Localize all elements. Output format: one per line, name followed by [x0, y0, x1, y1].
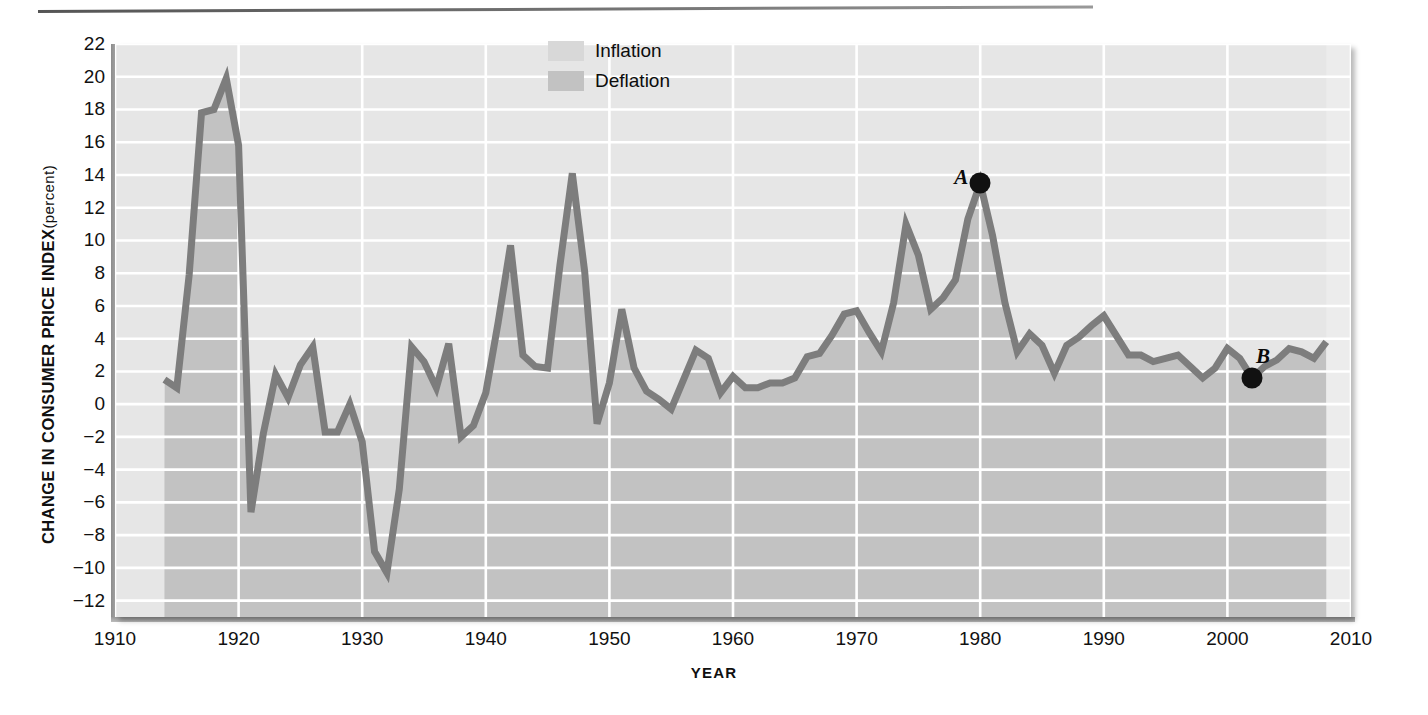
x-tick-label: 2010 [1330, 628, 1372, 650]
legend-item-inflation: Inflation [548, 40, 670, 62]
y-tick-label: 8 [61, 262, 105, 284]
legend: Inflation Deflation [548, 40, 670, 100]
y-tick-label: 2 [61, 360, 105, 382]
left-margin-strip [115, 44, 164, 617]
x-tick-label: 1920 [217, 628, 259, 650]
legend-swatch-deflation [548, 71, 584, 91]
y-tick-label: 4 [61, 328, 105, 350]
x-axis-title: YEAR [0, 664, 1428, 681]
y-tick-label: 20 [61, 66, 105, 88]
plot-inner [115, 44, 1351, 617]
y-tick-label: 16 [61, 131, 105, 153]
x-tick-label: 1970 [835, 628, 877, 650]
legend-swatch-inflation [548, 41, 584, 61]
annotation-dot [970, 173, 991, 194]
y-axis-tick-labels: 2220181614121086420−2−4−6−8−10−12 [55, 0, 105, 715]
y-tick-label: 14 [61, 164, 105, 186]
y-tick-label: 18 [61, 98, 105, 120]
chart-figure: CHANGE IN CONSUMER PRICE INDEX(percent) … [0, 0, 1428, 715]
x-tick-label: 1990 [1083, 628, 1125, 650]
x-tick-label: 1930 [341, 628, 383, 650]
x-tick-label: 1960 [712, 628, 754, 650]
y-tick-label: 22 [61, 33, 105, 55]
y-tick-label: −8 [61, 524, 105, 546]
x-tick-label: 1950 [588, 628, 630, 650]
annotation-label-b: B [1256, 344, 1270, 369]
top-rule-divider [38, 5, 1093, 13]
y-tick-label: −2 [61, 426, 105, 448]
y-tick-label: 12 [61, 197, 105, 219]
legend-item-deflation: Deflation [548, 70, 670, 92]
y-tick-label: −10 [61, 557, 105, 579]
y-axis-title-main: CHANGE IN CONSUMER PRICE INDEX [39, 229, 57, 544]
x-axis-line [111, 617, 1355, 622]
y-tick-label: 10 [61, 229, 105, 251]
annotation-dot [1242, 367, 1263, 388]
y-tick-label: −12 [61, 590, 105, 612]
legend-label-deflation: Deflation [595, 70, 670, 92]
annotation-label-a: A [954, 165, 968, 190]
x-tick-label: 2000 [1206, 628, 1248, 650]
legend-label-inflation: Inflation [595, 40, 662, 62]
chart-svg [115, 44, 1351, 617]
x-tick-label: 1910 [94, 628, 136, 650]
x-tick-label: 1980 [959, 628, 1001, 650]
x-tick-label: 1940 [465, 628, 507, 650]
right-margin-strip [1326, 44, 1351, 617]
y-tick-label: 0 [61, 393, 105, 415]
y-tick-label: 6 [61, 295, 105, 317]
y-tick-label: −4 [61, 459, 105, 481]
y-tick-label: −6 [61, 491, 105, 513]
plot-area [115, 44, 1351, 617]
y-axis-title-unit: (percent) [40, 165, 57, 229]
